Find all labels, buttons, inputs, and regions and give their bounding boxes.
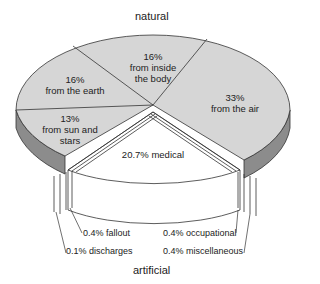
natural-heading: natural [135, 10, 169, 22]
slice-label-body: 16% from inside the body [118, 51, 188, 84]
earth-pct: 16% [35, 74, 115, 85]
body-text-1: from inside [118, 62, 188, 73]
body-pct: 16% [118, 51, 188, 62]
slice-label-sun: 13% from sun and stars [35, 113, 105, 146]
slice-label-air: 33% from the air [200, 92, 270, 114]
slice-label-medical: 20.7% medical [118, 149, 188, 160]
label-occupational: 0.4% occupational [163, 228, 237, 238]
label-miscellaneous: 0.4% miscellaneous [163, 246, 243, 256]
body-text-2: the body [118, 73, 188, 84]
slice-label-earth: 16% from the earth [35, 74, 115, 96]
sun-text-1: from sun and [35, 124, 105, 135]
sun-pct: 13% [35, 113, 105, 124]
air-pct: 33% [200, 92, 270, 103]
label-discharges: 0.1% discharges [66, 246, 133, 256]
label-fallout: 0.4% fallout [83, 228, 130, 238]
sun-text-2: stars [35, 135, 105, 146]
air-text-1: from the air [200, 103, 270, 114]
earth-text-1: from the earth [35, 85, 115, 96]
artificial-heading: artificial [133, 264, 170, 276]
